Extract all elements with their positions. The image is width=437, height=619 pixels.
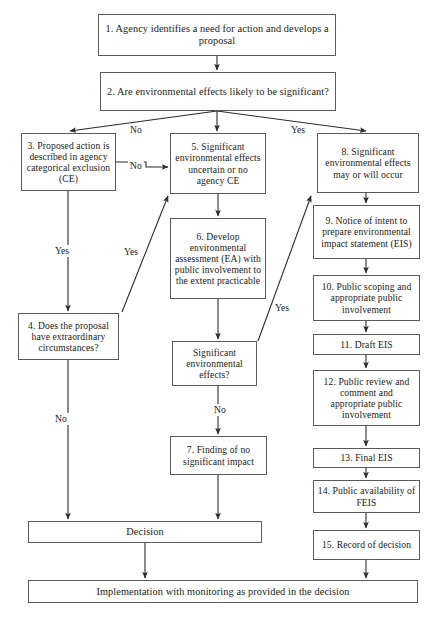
node-record-of-decision[interactable]: 15. Record of decision <box>313 530 420 560</box>
node-implementation[interactable]: Implementation with monitoring as provid… <box>28 580 418 603</box>
node-draft-eis[interactable]: 11. Draft EIS <box>313 334 420 355</box>
node-public-scoping[interactable]: 10. Public scoping and appropriate publi… <box>313 275 420 321</box>
edge-label-yes-ce-to-step4: Yes <box>53 245 71 257</box>
edge-label-yes-to-step8: Yes <box>289 124 307 136</box>
node-effects-likely-significant[interactable]: 2. Are environmental effects likely to b… <box>100 72 336 111</box>
node-label: 7. Finding of no significant impact <box>171 444 266 466</box>
node-notice-of-intent[interactable]: 9. Notice of intent to prepare environme… <box>313 205 420 259</box>
node-public-review-and-comment[interactable]: 12. Public review and comment and approp… <box>313 370 420 426</box>
edge-label-no-to-ce: No <box>128 124 144 136</box>
node-label: 12. Public review and comment and approp… <box>314 376 419 421</box>
flowchart-canvas: 1. Agency identifies a need for action a… <box>0 0 437 619</box>
node-label: 9. Notice of intent to prepare environme… <box>314 215 419 248</box>
node-final-eis[interactable]: 13. Final EIS <box>313 448 420 468</box>
node-label: 14. Public availability of FEIS <box>314 485 419 507</box>
node-agency-identifies-need[interactable]: 1. Agency identifies a need for action a… <box>98 14 336 56</box>
node-label: 8. Significant environmental effects may… <box>318 146 418 179</box>
node-label: 11. Draft EIS <box>337 339 395 350</box>
node-label: 4. Does the proposal have extraordinary … <box>19 320 118 353</box>
edge-label-no-step4-to-decision: No <box>53 413 69 425</box>
node-effects-uncertain[interactable]: 5. Significant environmental effects unc… <box>170 133 266 194</box>
node-label: 1. Agency identifies a need for action a… <box>99 23 335 47</box>
node-finding-of-no-significant-impact[interactable]: 7. Finding of no significant impact <box>170 436 267 475</box>
edge-label-no-sig-to-step7: No <box>212 404 228 416</box>
node-label: 3. Proposed action is described in agenc… <box>22 140 115 185</box>
node-label: 15. Record of decision <box>319 539 414 550</box>
node-label: 6. Develop environmental assessment (EA)… <box>171 231 265 287</box>
node-develop-environmental-assessment[interactable]: 6. Develop environmental assessment (EA)… <box>170 218 266 299</box>
node-label: 10. Public scoping and appropriate publi… <box>314 281 419 314</box>
node-label: Significant environmental effects? <box>173 347 256 380</box>
node-label: Decision <box>123 526 166 538</box>
node-public-availability-of-feis[interactable]: 14. Public availability of FEIS <box>313 480 420 513</box>
edge-label-yes-sig-to-step9: Yes <box>273 302 291 314</box>
node-extraordinary-circumstances[interactable]: 4. Does the proposal have extraordinary … <box>18 313 119 360</box>
node-label: 5. Significant environmental effects unc… <box>171 141 265 186</box>
node-label: 13. Final EIS <box>337 452 395 463</box>
node-decision[interactable]: Decision <box>28 521 262 543</box>
node-effects-may-or-will-occur[interactable]: 8. Significant environmental effects may… <box>317 133 419 193</box>
edge-label-yes-step4-to-step5: Yes <box>122 246 140 258</box>
node-categorical-exclusion[interactable]: 3. Proposed action is described in agenc… <box>21 133 116 191</box>
node-label: Implementation with monitoring as provid… <box>93 586 352 598</box>
node-label: 2. Are environmental effects likely to b… <box>104 86 332 98</box>
edge-label-no-ce-to-step5: No <box>128 160 144 172</box>
node-significant-effects-question[interactable]: Significant environmental effects? <box>172 341 257 386</box>
